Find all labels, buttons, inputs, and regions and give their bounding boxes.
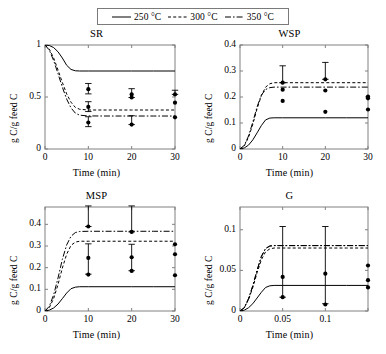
legend-entry: 350 °C xyxy=(225,12,274,22)
data-point-with-error xyxy=(128,244,134,270)
y-tick-label: 0 xyxy=(206,143,236,153)
data-point-marker xyxy=(173,273,177,277)
data-point-marker xyxy=(366,263,370,267)
series-line xyxy=(240,246,368,311)
data-point-marker xyxy=(366,278,370,282)
x-axis-label: Time (min) xyxy=(0,167,193,178)
data-point-with-error xyxy=(322,227,328,304)
x-tick-label: 20 xyxy=(311,152,339,162)
data-point-marker xyxy=(281,275,285,279)
data-point-marker xyxy=(173,92,177,96)
x-axis-label: Time (min) xyxy=(193,167,386,178)
data-point-with-error xyxy=(323,302,327,306)
data-point-with-error xyxy=(323,110,327,114)
y-tick-label: 0.3 xyxy=(11,240,41,250)
legend-line-sample xyxy=(225,14,244,20)
data-point-marker xyxy=(130,122,134,126)
data-point-marker xyxy=(281,99,285,103)
data-point-with-error xyxy=(86,273,90,277)
data-point-marker xyxy=(323,302,327,306)
data-point-with-error xyxy=(323,88,327,92)
data-point-marker xyxy=(173,115,177,119)
data-point-with-error xyxy=(366,263,370,267)
series-line xyxy=(240,118,368,149)
x-tick-label: 30 xyxy=(161,152,189,162)
data-point-with-error xyxy=(173,252,177,256)
x-tick-label: 20 xyxy=(118,314,146,324)
data-point-with-error xyxy=(128,206,134,234)
data-point-with-error xyxy=(128,116,134,127)
data-point-with-error xyxy=(172,90,178,96)
data-point-marker xyxy=(281,88,285,92)
series-line xyxy=(240,285,368,311)
data-point-with-error xyxy=(279,66,285,85)
y-tick-label: 1 xyxy=(11,39,41,49)
y-axis-label: g C/g feed C xyxy=(204,94,214,143)
data-point-marker xyxy=(86,87,90,91)
x-axis-label: Time (min) xyxy=(0,329,193,340)
y-axis-label: g C/g feed C xyxy=(9,256,19,305)
y-tick-label: 0.3 xyxy=(206,65,236,75)
data-point-marker xyxy=(130,269,134,273)
y-tick-label: 0 xyxy=(206,305,236,315)
data-point-marker xyxy=(366,96,370,100)
x-tick-label: 30 xyxy=(161,314,189,324)
data-point-with-error xyxy=(173,101,177,105)
data-point-marker xyxy=(130,95,134,99)
data-point-marker xyxy=(366,107,370,111)
subplot-sr: SR010203000.51Time (min)g C/g feed C xyxy=(0,28,193,191)
data-point-with-error xyxy=(281,99,285,103)
data-point-marker xyxy=(323,110,327,114)
data-point-marker xyxy=(323,272,327,276)
legend-entry: 300 °C xyxy=(168,12,217,22)
legend-label: 250 °C xyxy=(134,12,161,22)
data-point-with-error xyxy=(85,244,91,274)
series-line xyxy=(45,231,175,311)
data-point-with-error xyxy=(173,115,177,119)
x-tick-label: 0 xyxy=(31,152,59,162)
data-point-marker xyxy=(173,242,177,246)
data-point-with-error xyxy=(173,242,177,246)
data-point-with-error xyxy=(85,83,91,93)
data-point-marker xyxy=(86,120,90,124)
data-point-marker xyxy=(173,101,177,105)
data-point-with-error xyxy=(85,206,91,229)
data-point-with-error xyxy=(173,273,177,277)
data-point-with-error xyxy=(279,227,285,298)
x-tick-label: 0 xyxy=(226,314,254,324)
data-point-marker xyxy=(366,285,370,289)
legend-label: 300 °C xyxy=(190,12,217,22)
legend: 250 °C300 °C350 °C xyxy=(97,8,289,25)
data-point-with-error xyxy=(322,62,328,81)
data-point-with-error xyxy=(130,95,134,99)
x-tick-label: 30 xyxy=(354,152,382,162)
data-point-marker xyxy=(86,256,90,260)
legend-label: 350 °C xyxy=(247,12,274,22)
data-point-marker xyxy=(86,224,90,228)
data-point-marker xyxy=(323,88,327,92)
x-tick-label: 0 xyxy=(226,152,254,162)
series-line xyxy=(45,45,175,116)
data-point-marker xyxy=(323,77,327,81)
y-tick-label: 0 xyxy=(11,305,41,315)
x-tick-label: 10 xyxy=(269,152,297,162)
axis-frame xyxy=(45,45,175,149)
x-tick-label: 0 xyxy=(31,314,59,324)
y-axis-label: g C/g feed C xyxy=(204,256,214,305)
data-point-with-error xyxy=(281,295,285,299)
data-point-marker xyxy=(130,230,134,234)
series-line xyxy=(45,45,175,110)
data-point-marker xyxy=(130,255,134,259)
subplot-g: G00.050.100.050.1Time (min)g C/g feed C xyxy=(193,190,386,354)
data-point-with-error xyxy=(130,269,134,273)
x-tick-label: 10 xyxy=(74,314,102,324)
x-tick-label: 0.1 xyxy=(311,314,339,324)
axis-frame xyxy=(240,45,368,149)
data-point-with-error xyxy=(366,107,370,111)
data-point-marker xyxy=(86,105,90,109)
data-point-with-error xyxy=(366,278,370,282)
y-tick-label: 0.4 xyxy=(206,39,236,49)
y-tick-label: 0.1 xyxy=(206,224,236,234)
series-line xyxy=(240,248,368,311)
series-line xyxy=(45,287,175,311)
